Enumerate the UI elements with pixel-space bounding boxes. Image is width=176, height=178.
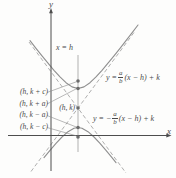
focus-lower-dot [76, 135, 80, 139]
x-axis-label: x [167, 127, 176, 136]
hyperbola-diagram: y x x = h (h, k + c) (h, k + a) (h, k − … [0, 0, 176, 178]
vertex-lower-dot [76, 126, 80, 130]
label-h-k-minus-a: (h, k − a) [2, 110, 48, 119]
vertical-line-label: x = h [56, 43, 73, 52]
label-h-k-plus-c: (h, k + c) [2, 87, 48, 96]
eq-pos-denominator: b [119, 78, 123, 85]
y-axis-label: y [45, 0, 57, 9]
hyperbola-lower-branch [44, 128, 116, 163]
label-center-h-k: (h, k) [50, 103, 75, 112]
eq-pos-fraction: a b [118, 70, 124, 85]
center-dot [76, 106, 80, 110]
eq-neg-prefix: y = − [93, 114, 111, 123]
asymptote-negative-equation: y = − a b (x − h) + k [93, 111, 154, 126]
label-h-k-minus-c: (h, k − c) [2, 122, 48, 131]
eq-neg-fraction: a b [112, 111, 118, 126]
label-h-k-plus-a: (h, k + a) [2, 99, 48, 108]
focus-upper-dot [76, 79, 80, 83]
eq-neg-suffix: (x − h) + k [119, 114, 154, 123]
eq-pos-suffix: (x − h) + k [124, 73, 159, 82]
eq-pos-prefix: y = [106, 73, 117, 82]
vertex-upper-dot [76, 87, 80, 91]
eq-neg-denominator: b [113, 119, 117, 126]
asymptote-positive-equation: y = a b (x − h) + k [106, 70, 160, 85]
